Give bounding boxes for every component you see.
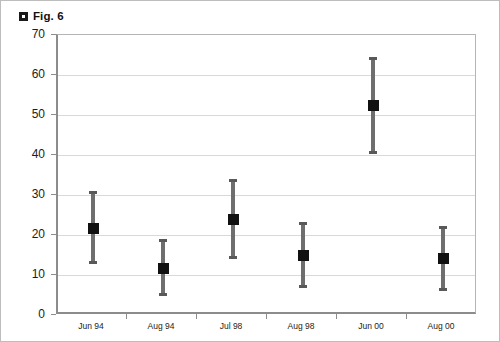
error-bar-cap-upper (369, 57, 377, 60)
y-axis-tick (51, 114, 56, 115)
x-axis-tick (336, 314, 337, 319)
y-axis-tick (51, 274, 56, 275)
x-axis-tick-label: Aug 00 (406, 321, 476, 331)
x-axis-tick (406, 314, 407, 319)
error-bar-cap-upper (159, 239, 167, 242)
y-axis-tick-label: 40 (32, 148, 45, 160)
x-axis-tick-label: Aug 94 (126, 321, 196, 331)
error-bar-cap-upper (439, 226, 447, 229)
data-point-marker[interactable] (368, 100, 379, 111)
x-axis-tick (266, 314, 267, 319)
x-axis-tick-label: Jun 00 (336, 321, 406, 331)
figure-title-label: Fig. 6 (33, 10, 64, 22)
y-axis-tick (51, 74, 56, 75)
x-axis-tick-label: Aug 98 (266, 321, 336, 331)
error-bar-cap-lower (299, 285, 307, 288)
y-axis-tick (51, 34, 56, 35)
x-axis-tick-label: Jul 98 (196, 321, 266, 331)
y-axis-tick (51, 234, 56, 235)
y-axis-tick (51, 314, 56, 315)
gridline (58, 235, 475, 236)
data-point-marker[interactable] (88, 223, 99, 234)
error-bar-cap-lower (439, 288, 447, 291)
error-bar-cap-lower (229, 256, 237, 259)
error-bar-cap-upper (89, 191, 97, 194)
data-point-marker[interactable] (228, 214, 239, 225)
y-axis-tick-label: 50 (32, 108, 45, 120)
square-bullet-icon (19, 12, 28, 21)
data-point-marker[interactable] (158, 263, 169, 274)
gridline (58, 155, 475, 156)
error-bar-cap-lower (159, 293, 167, 296)
error-bar-cap-upper (229, 179, 237, 182)
y-axis-tick (51, 194, 56, 195)
gridline (58, 195, 475, 196)
y-axis-tick (51, 154, 56, 155)
y-axis-tick-label: 0 (38, 308, 45, 320)
gridline (58, 75, 475, 76)
x-axis-tick (196, 314, 197, 319)
data-point-marker[interactable] (298, 250, 309, 261)
y-axis-tick-label: 10 (32, 268, 45, 280)
plot-area (56, 34, 476, 314)
error-bar-cap-upper (299, 222, 307, 225)
x-axis-tick (126, 314, 127, 319)
y-axis-tick-label: 70 (32, 28, 45, 40)
figure-page: Fig. 6 010203040506070Jun 94Aug 94Jul 98… (0, 0, 500, 342)
gridline (58, 115, 475, 116)
gridline (58, 275, 475, 276)
error-bar-cap-lower (369, 151, 377, 154)
data-point-marker[interactable] (438, 253, 449, 264)
figure-caption: Fig. 6 (19, 8, 64, 24)
y-axis-tick-label: 60 (32, 68, 45, 80)
y-axis-tick-label: 30 (32, 188, 45, 200)
x-axis-tick-label: Jun 94 (56, 321, 126, 331)
y-axis-tick-label: 20 (32, 228, 45, 240)
error-bar-cap-lower (89, 261, 97, 264)
